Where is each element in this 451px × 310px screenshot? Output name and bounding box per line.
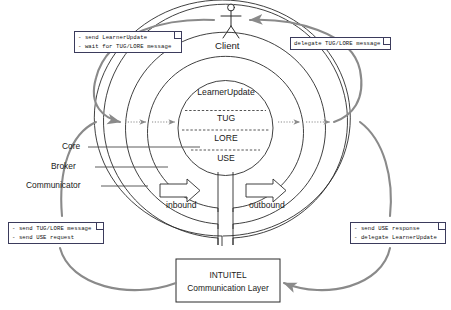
flow-label-outbound: outbound bbox=[249, 201, 285, 211]
flow-block-arrows bbox=[160, 179, 286, 202]
note-client-send-line-2: - wait for TUG/LORE message bbox=[78, 43, 178, 52]
ring-label-communicator: Communicator bbox=[26, 181, 80, 191]
intuitel-box-title: INTUITEL bbox=[176, 269, 280, 281]
core-layer-lore: LORE bbox=[186, 134, 266, 144]
note-fold-icon bbox=[383, 38, 390, 45]
note-client-send: - send LearnerUpdate - wait for TUG/LORE… bbox=[74, 31, 182, 53]
curve-note-to-intuitel bbox=[60, 248, 176, 290]
flow-label-inbound: inbound bbox=[166, 201, 197, 211]
client-actor-label: Client bbox=[215, 40, 240, 51]
note-client-delegate-line-1: delegate TUG/LORE message bbox=[294, 40, 387, 49]
note-client-send-line-1: - send LearnerUpdate bbox=[78, 34, 178, 43]
ring-leader-lines bbox=[88, 147, 200, 186]
diagram-canvas: Client LearnerUpdate TUG LORE USE Core B… bbox=[0, 0, 451, 310]
ring-label-core: Core bbox=[62, 142, 80, 152]
curve-intuitel-from-right bbox=[284, 248, 390, 290]
inbound-arrow-shape bbox=[160, 179, 200, 202]
note-comm-send-line-1: - send TUG/LORE message bbox=[12, 225, 100, 234]
note-fold-icon bbox=[96, 223, 103, 230]
note-comm-send-line-2: - send USE request bbox=[12, 234, 100, 243]
note-fold-icon bbox=[438, 223, 445, 230]
intuitel-box-subtitle: Communication Layer bbox=[176, 282, 280, 294]
bottom-channel bbox=[218, 172, 233, 245]
note-fold-icon bbox=[174, 32, 181, 39]
outbound-arrow-shape bbox=[246, 179, 286, 202]
note-comm-response: - send USE response - delegate LearnerUp… bbox=[350, 222, 446, 244]
curve-right-inflow bbox=[360, 122, 391, 216]
core-layer-use: USE bbox=[186, 154, 266, 164]
note-comm-response-line-1: - send USE response bbox=[354, 225, 442, 234]
core-layer-learnerupdate: LearnerUpdate bbox=[186, 88, 266, 98]
note-comm-send: - send TUG/LORE message - send USE reque… bbox=[8, 222, 104, 244]
note-client-delegate: delegate TUG/LORE message bbox=[290, 37, 391, 50]
ring-label-broker: Broker bbox=[51, 162, 76, 172]
note-comm-response-line-2: - delegate LearnerUpdate bbox=[354, 234, 442, 243]
core-layer-tug: TUG bbox=[186, 114, 266, 124]
